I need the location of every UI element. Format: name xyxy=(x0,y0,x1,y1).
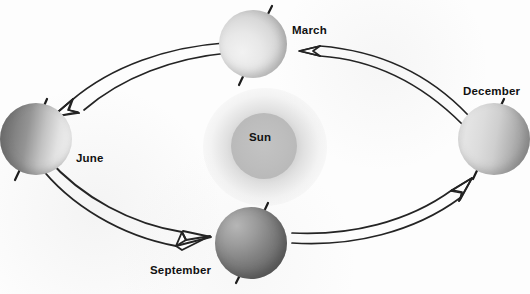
label-june: June xyxy=(76,152,104,164)
earth-june xyxy=(0,103,72,175)
label-september: September xyxy=(150,264,211,276)
label-march: March xyxy=(292,24,327,36)
arrow-june-to-september xyxy=(38,158,211,250)
earth-march xyxy=(219,10,287,78)
arrow-december-to-march xyxy=(299,46,468,124)
label-december: December xyxy=(463,85,520,97)
earth-december xyxy=(458,103,530,175)
earth-september xyxy=(215,207,287,279)
orbit-diagram: Sun xyxy=(0,0,530,294)
arrow-september-to-december xyxy=(292,178,472,244)
arrow-march-to-june xyxy=(52,43,228,117)
